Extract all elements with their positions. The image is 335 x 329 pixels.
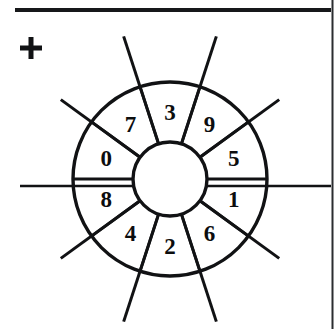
sector-label-7: 7 bbox=[125, 112, 137, 137]
sector-label-5: 5 bbox=[228, 146, 240, 171]
figure-page: 5937084261 bbox=[0, 0, 335, 329]
sector-label-1: 1 bbox=[228, 187, 240, 212]
plus-mark-icon bbox=[20, 37, 42, 59]
sector-label-0: 0 bbox=[101, 146, 113, 171]
sector-divider bbox=[140, 87, 159, 144]
sector-divider bbox=[181, 87, 200, 144]
sector-label-4: 4 bbox=[125, 221, 137, 246]
figure-drawing: 5937084261 bbox=[0, 0, 335, 329]
sector-label-6: 6 bbox=[204, 221, 216, 246]
sector-label-2: 2 bbox=[164, 234, 176, 259]
sector-label-9: 9 bbox=[204, 112, 216, 137]
sector-label-3: 3 bbox=[164, 100, 176, 125]
inner-circle bbox=[133, 142, 207, 216]
sector-label-8: 8 bbox=[101, 187, 113, 212]
sector-divider bbox=[181, 214, 200, 271]
sector-divider bbox=[140, 214, 159, 271]
